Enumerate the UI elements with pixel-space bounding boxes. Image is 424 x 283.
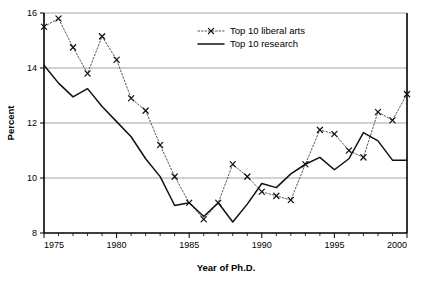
x-tick-label: 1980 [107, 240, 127, 250]
x-tick-label: 1995 [324, 240, 344, 250]
x-tick-label: 1990 [252, 240, 272, 250]
series-layer [44, 19, 407, 223]
data-point-marker [99, 34, 104, 39]
legend-label: Top 10 research [230, 38, 298, 49]
data-point-marker [361, 155, 366, 160]
chart-plot: 810121416197519801985199019952000 Top 10… [0, 0, 424, 283]
data-point-marker [375, 109, 380, 114]
y-axis-title: Percent [5, 105, 16, 141]
data-point-marker [143, 108, 148, 113]
data-point-marker [158, 142, 163, 147]
series-line [44, 19, 407, 220]
y-tick-label: 8 [32, 228, 37, 238]
x-tick-label: 2000 [387, 240, 407, 250]
data-point-marker [216, 200, 221, 205]
data-point-marker [274, 193, 279, 198]
y-tick-label: 16 [27, 8, 37, 18]
tick-marks [40, 13, 407, 238]
markers-layer [41, 16, 409, 222]
legend-label: Top 10 liberal arts [230, 25, 305, 36]
y-tick-label: 10 [27, 173, 37, 183]
x-tick-label: 1975 [44, 240, 64, 250]
x-axis-title: Year of Ph.D. [197, 262, 256, 273]
chart-container: 810121416197519801985199019952000 Top 10… [0, 0, 424, 283]
data-point-marker [303, 162, 308, 167]
data-point-marker [114, 57, 119, 62]
data-point-marker [346, 148, 351, 153]
data-point-marker [56, 16, 61, 21]
x-tick-label: 1985 [179, 240, 199, 250]
data-point-marker [201, 217, 206, 222]
data-point-marker [129, 96, 134, 101]
data-point-marker [390, 118, 395, 123]
data-point-marker [70, 45, 75, 50]
y-tick-label: 14 [27, 63, 37, 73]
y-tick-label: 12 [27, 118, 37, 128]
series-line [44, 65, 407, 222]
data-point-marker [317, 127, 322, 132]
data-point-marker [230, 162, 235, 167]
data-point-marker [85, 71, 90, 76]
legend: Top 10 liberal artsTop 10 research [198, 25, 305, 49]
